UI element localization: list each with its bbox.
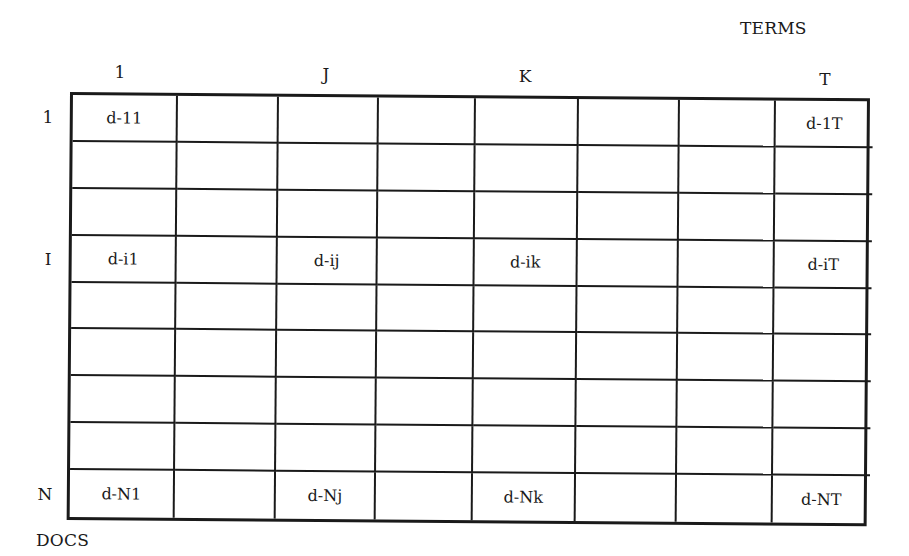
column-label: T — [819, 71, 830, 88]
matrix-cell — [578, 146, 679, 194]
matrix-cell — [175, 377, 276, 425]
matrix-cell — [774, 288, 871, 336]
matrix-cell — [678, 334, 774, 382]
matrix-cell — [678, 287, 774, 335]
matrix-cell — [176, 330, 277, 378]
matrix-cell: d-ij — [277, 237, 377, 285]
matrix-cell — [177, 143, 278, 191]
matrix-cell: d-11 — [73, 95, 178, 143]
matrix-cell — [177, 237, 278, 285]
matrix-cell — [379, 97, 476, 145]
docs-axis-title: DOCS — [36, 532, 89, 549]
row-label: I — [45, 251, 52, 268]
matrix-cell — [680, 100, 776, 148]
matrix-cell — [278, 190, 378, 238]
matrix-cell — [577, 333, 678, 381]
matrix-cell: d-ik — [474, 239, 577, 287]
matrix-cell — [378, 191, 475, 239]
matrix-cell — [70, 423, 175, 471]
matrix-cell — [474, 333, 577, 381]
matrix-cell — [376, 379, 473, 427]
document-term-matrix: d-11d-1Td-i1d-ijd-ikd-iTd-N1d-Njd-Nkd-NT — [67, 92, 870, 526]
matrix-cell — [377, 238, 474, 286]
matrix-cell — [276, 425, 376, 473]
matrix-cell — [475, 145, 578, 193]
matrix-cell — [70, 376, 175, 424]
column-label: 1 — [115, 64, 126, 81]
row-label: N — [38, 486, 53, 503]
matrix-cell — [276, 378, 376, 426]
matrix-cell — [774, 335, 871, 383]
matrix-cell — [775, 147, 872, 195]
matrix-cell — [279, 97, 379, 145]
matrix-cell: d-NT — [773, 476, 870, 524]
matrix-cell — [177, 190, 278, 238]
matrix-cell — [378, 144, 475, 192]
matrix-cell — [474, 286, 577, 334]
matrix-cell: d-N1 — [70, 470, 175, 518]
terms-axis-title: TERMS — [740, 20, 807, 37]
matrix-cell — [677, 428, 773, 476]
matrix-cell — [71, 283, 176, 331]
matrix-cell — [473, 380, 576, 428]
matrix-cell: d-Nj — [276, 472, 376, 520]
matrix-cell — [376, 473, 473, 521]
matrix-cell — [473, 426, 576, 474]
matrix-cell — [277, 331, 377, 379]
matrix-cell: d-i1 — [72, 236, 177, 284]
matrix-cell — [773, 382, 870, 430]
matrix-cell — [775, 194, 872, 242]
matrix-cell: d-1T — [776, 101, 873, 149]
matrix-cell — [376, 426, 473, 474]
matrix-cell — [72, 142, 177, 190]
matrix-cell: d-Nk — [473, 473, 576, 521]
matrix-cell — [578, 193, 679, 241]
matrix-cell — [71, 329, 176, 377]
matrix-cell — [679, 147, 775, 195]
matrix-cell — [377, 285, 474, 333]
matrix-cell — [679, 194, 775, 242]
matrix-cell — [579, 99, 680, 147]
matrix-cell — [576, 427, 677, 475]
matrix-cell — [277, 284, 377, 332]
matrix-cell — [576, 474, 677, 522]
matrix-cell — [576, 380, 677, 428]
matrix-cell — [678, 240, 774, 288]
matrix-cell — [577, 240, 678, 288]
matrix-cell — [175, 424, 276, 472]
matrix-cell — [773, 429, 870, 477]
matrix-cell — [475, 192, 578, 240]
matrix-cell: d-iT — [774, 241, 871, 289]
column-label: J — [323, 66, 330, 83]
column-label: K — [519, 68, 532, 85]
matrix-cell — [677, 381, 773, 429]
matrix-cell — [476, 98, 579, 146]
matrix-cell — [178, 96, 279, 144]
matrix-cell — [72, 189, 177, 237]
matrix-cell — [377, 332, 474, 380]
matrix-cell — [677, 475, 773, 523]
row-label: 1 — [43, 109, 54, 126]
matrix-cell — [175, 471, 276, 519]
matrix-cell — [577, 287, 678, 335]
matrix-cell — [278, 144, 378, 192]
matrix-cell — [176, 283, 277, 331]
